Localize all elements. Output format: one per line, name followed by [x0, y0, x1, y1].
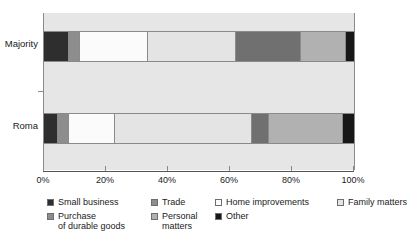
x-axis-tick-label: 80%: [282, 175, 300, 186]
bar-segment[interactable]: [343, 114, 354, 143]
y-axis-label-roma: Roma: [0, 120, 38, 131]
legend-column-3: Home improvementsOther: [215, 197, 337, 224]
x-axis-line: [43, 171, 354, 172]
bar-row-roma[interactable]: [44, 113, 354, 144]
legend-item[interactable]: Purchaseof durable goods: [47, 211, 149, 232]
y-axis-label-majority: Majority: [0, 38, 38, 49]
bar-segment[interactable]: [115, 114, 251, 143]
legend-swatch-icon: [215, 199, 222, 206]
legend-swatch-icon: [337, 199, 344, 206]
y-axis-line: [43, 13, 44, 171]
x-axis-tick-label: 0%: [36, 175, 49, 186]
legend-label: Trade: [162, 197, 185, 208]
x-axis-tick-label: 100%: [341, 175, 364, 186]
legend-column-1: Small businessPurchaseof durable goods: [47, 197, 149, 235]
bar-segment[interactable]: [58, 114, 69, 143]
legend-item[interactable]: Home improvements: [215, 197, 337, 208]
x-axis-tick-label: 60%: [220, 175, 238, 186]
bar-segment[interactable]: [252, 114, 269, 143]
plot-area: [43, 13, 355, 170]
legend-swatch-icon: [151, 213, 158, 220]
bar-row-majority[interactable]: [44, 31, 354, 62]
legend-swatch-icon: [47, 199, 54, 206]
y-axis-tick: [38, 91, 43, 92]
bar-segment[interactable]: [301, 32, 346, 61]
x-axis-tick: [167, 166, 168, 171]
legend-swatch-icon: [151, 199, 158, 206]
bar-segment[interactable]: [69, 32, 80, 61]
bar-segment[interactable]: [148, 32, 236, 61]
bar-segment[interactable]: [69, 114, 116, 143]
bar-segment[interactable]: [44, 114, 58, 143]
legend-label: Personalmatters: [162, 211, 198, 232]
bar-segment[interactable]: [236, 32, 301, 61]
legend-item[interactable]: Family matters: [337, 197, 412, 208]
legend-swatch-icon: [47, 213, 54, 220]
x-axis-tick: [43, 166, 44, 171]
legend-column-2: TradePersonalmatters: [151, 197, 213, 235]
legend-item[interactable]: Trade: [151, 197, 213, 208]
x-axis-tick: [353, 166, 354, 171]
legend-label: Purchaseof durable goods: [58, 211, 125, 232]
bar-segment[interactable]: [269, 114, 343, 143]
x-axis-tick: [105, 166, 106, 171]
legend-label: Small business: [58, 197, 119, 208]
bar-segment[interactable]: [80, 32, 148, 61]
bar-segment[interactable]: [346, 32, 354, 61]
legend-column-4: Family matters: [337, 197, 412, 211]
legend-swatch-icon: [215, 213, 222, 220]
legend-item[interactable]: Small business: [47, 197, 149, 208]
legend-item[interactable]: Other: [215, 211, 337, 222]
legend-item[interactable]: Personalmatters: [151, 211, 213, 232]
legend-label: Home improvements: [226, 197, 309, 208]
legend-label: Other: [226, 211, 249, 222]
legend-label: Family matters: [348, 197, 407, 208]
bar-segment[interactable]: [44, 32, 69, 61]
x-axis-tick-label: 40%: [158, 175, 176, 186]
x-axis-tick: [229, 166, 230, 171]
x-axis-tick: [291, 166, 292, 171]
x-axis-tick-label: 20%: [96, 175, 114, 186]
